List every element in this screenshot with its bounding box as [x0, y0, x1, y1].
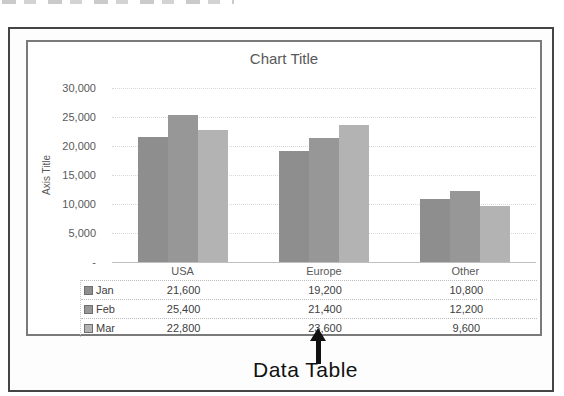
- category-label-usa: USA: [112, 263, 253, 280]
- chart-area-frame: Chart Title Axis Title 30,00025,00020,00…: [26, 40, 542, 336]
- bar-group-other: [395, 88, 536, 262]
- bar-mar-europe: [339, 125, 369, 262]
- table-row-header: Mar: [81, 322, 113, 334]
- y-tick-label: -: [92, 256, 96, 268]
- bar-feb-usa: [168, 115, 198, 262]
- bar-group-usa: [112, 88, 253, 262]
- plot-area: [112, 88, 536, 263]
- y-tick-label: 15,000: [62, 169, 96, 181]
- bar-feb-europe: [309, 138, 339, 262]
- chart-title: Chart Title: [28, 50, 540, 67]
- chart-data-table: Jan21,60019,20010,800Feb25,40021,40012,2…: [80, 280, 537, 337]
- table-cell: 21,400: [254, 303, 395, 315]
- bar-jan-usa: [138, 137, 168, 262]
- table-cell: 21,600: [113, 284, 254, 296]
- figure-outer-frame: Chart Title Axis Title 30,00025,00020,00…: [8, 27, 554, 392]
- bar-feb-other: [450, 191, 480, 262]
- table-cell: 25,400: [113, 303, 254, 315]
- legend-swatch-icon: [84, 286, 93, 295]
- bar-group-europe: [253, 88, 394, 262]
- table-row-header: Feb: [81, 303, 113, 315]
- table-row-header: Jan: [81, 284, 113, 296]
- y-tick-label: 30,000: [62, 82, 96, 94]
- table-cell: 23,600: [254, 322, 395, 334]
- bar-mar-usa: [198, 130, 228, 262]
- category-label-other: Other: [395, 263, 536, 280]
- legend-swatch-icon: [84, 305, 93, 314]
- bar-jan-europe: [279, 151, 309, 262]
- x-axis-category-labels: USAEuropeOther: [112, 263, 536, 280]
- series-name: Jan: [96, 284, 114, 296]
- y-tick-label: 10,000: [62, 198, 96, 210]
- table-row-feb: Feb25,40021,40012,200: [81, 299, 537, 318]
- bar-jan-other: [420, 199, 450, 262]
- table-cell: 12,200: [396, 303, 537, 315]
- table-cell: 22,800: [113, 322, 254, 334]
- y-tick-label: 25,000: [62, 111, 96, 123]
- y-tick-label: 5,000: [68, 227, 96, 239]
- cropped-text-remnant: [2, 0, 234, 4]
- table-cell: 10,800: [396, 284, 537, 296]
- legend-swatch-icon: [84, 324, 93, 333]
- table-row-jan: Jan21,60019,20010,800: [81, 280, 537, 299]
- table-cell: 19,200: [254, 284, 395, 296]
- y-tick-label: 20,000: [62, 140, 96, 152]
- category-label-europe: Europe: [253, 263, 394, 280]
- y-axis-tick-labels: 30,00025,00020,00015,00010,0005,000-: [28, 88, 104, 262]
- table-row-mar: Mar22,80023,6009,600: [81, 318, 537, 337]
- table-cell: 9,600: [396, 322, 537, 334]
- bar-mar-other: [480, 206, 510, 262]
